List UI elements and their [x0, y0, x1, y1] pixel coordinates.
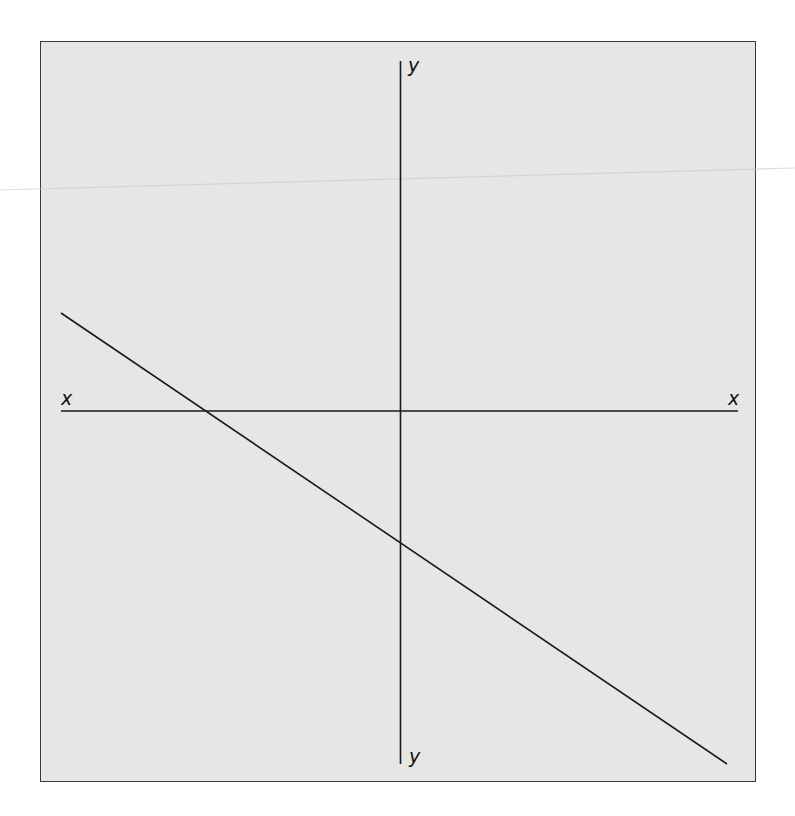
y-axis-label-top: y: [407, 54, 420, 76]
y-axis-label-bottom: y: [408, 745, 421, 767]
x-axis-label-right: x: [727, 387, 740, 409]
graph-line: [61, 313, 727, 764]
coordinate-plot: x x y y: [0, 0, 795, 816]
x-axis-label-left: x: [60, 387, 73, 409]
